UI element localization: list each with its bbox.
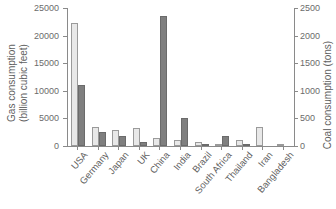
gas-bar-brazil [195,142,202,146]
gas-bar-germany [92,127,99,146]
right-axis-tick-label: 1500 [300,59,320,68]
plot-area [67,8,295,147]
left-axis-title: Gas consumption (billion cubic feet) [6,8,30,158]
gas-bar-iran [256,127,263,146]
x-axis-tick [118,147,119,150]
x-axis-tick [283,147,284,150]
gas-bar-usa [71,23,78,146]
gas-bar-uk [133,128,140,146]
coal-bar-uk [140,142,147,146]
x-axis-tick [242,147,243,150]
right-axis-tick-label: 2000 [300,32,320,41]
gas-bar-south-africa [215,144,222,146]
left-axis-tick [63,8,67,9]
left-axis-tick-label: 5000 [29,114,59,123]
gas-bar-japan [112,130,119,146]
left-axis-tick-label: 15000 [29,59,59,68]
gas-bar-bangladesh [277,144,284,146]
left-axis-tick [63,91,67,92]
left-axis-tick-label: 0 [29,142,59,151]
x-axis-tick [159,147,160,150]
dual-axis-bar-chart: Gas consumption (billion cubic feet) Coa… [0,0,336,209]
left-axis-tick [63,63,67,64]
x-axis-tick [139,147,140,150]
x-axis-tick [180,147,181,150]
right-axis-title: Coal consumption (tons) [322,15,334,175]
left-axis-title-line2: (billion cubic feet) [18,8,30,158]
gas-bar-india [174,140,181,146]
gas-bar-china [153,138,160,146]
right-axis-tick [294,8,298,9]
coal-bar-china [160,16,167,146]
left-axis-tick-label: 25000 [29,4,59,13]
left-axis-tick [63,146,67,147]
left-axis-tick [63,118,67,119]
x-axis-tick [221,147,222,150]
x-axis-tick [201,147,202,150]
right-axis-tick [294,118,298,119]
right-axis-tick [294,91,298,92]
right-axis-tick-label: 0 [300,142,305,151]
x-axis-tick [98,147,99,150]
right-axis-tick-label: 500 [300,114,315,123]
right-axis-tick [294,36,298,37]
gas-bar-thailand [236,140,243,146]
coal-bar-japan [119,136,126,146]
right-axis-tick-label: 1000 [300,87,320,96]
coal-bar-india [181,118,188,146]
x-axis-tick [77,147,78,150]
left-axis-tick [63,36,67,37]
coal-bar-thailand [243,144,250,146]
coal-bar-germany [99,132,106,146]
coal-bar-brazil [202,144,209,146]
x-axis-tick [262,147,263,150]
left-axis-title-line1: Gas consumption [6,8,18,158]
left-axis-tick-label: 20000 [29,32,59,41]
coal-bar-south-africa [222,136,229,146]
right-axis-tick [294,146,298,147]
right-axis-tick [294,63,298,64]
left-axis-tick-label: 10000 [29,87,59,96]
coal-bar-usa [78,85,85,146]
right-axis-tick-label: 2500 [300,4,320,13]
